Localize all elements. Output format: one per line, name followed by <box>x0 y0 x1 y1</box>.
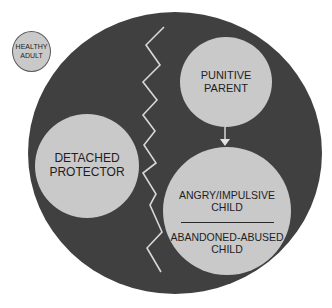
detached-protector-label-line2: PROTECTOR <box>49 166 124 180</box>
child-modes-divider <box>181 222 274 223</box>
angry-impulsive-child-label-line2: CHILD <box>211 201 243 213</box>
angry-impulsive-child-label-line1: ANGRY/IMPULSIVE <box>179 189 275 201</box>
punitive-parent-label-line2: PARENT <box>204 82 248 95</box>
detached-protector-mode: DETACHED PROTECTOR <box>35 114 139 218</box>
arrow-down-icon <box>220 127 230 146</box>
punitive-parent-label-line1: PUNITIVE <box>201 69 252 82</box>
punitive-parent-mode: PUNITIVE PARENT <box>180 37 272 127</box>
abandoned-abused-child-label-line1: ABANDONED-ABUSED <box>170 231 283 243</box>
zigzag-divider <box>143 27 164 272</box>
detached-protector-label-line1: DETACHED <box>54 152 119 166</box>
abandoned-abused-child-label-line2: CHILD <box>211 243 243 255</box>
child-modes: ANGRY/IMPULSIVE CHILD ABANDONED-ABUSED C… <box>163 147 291 275</box>
